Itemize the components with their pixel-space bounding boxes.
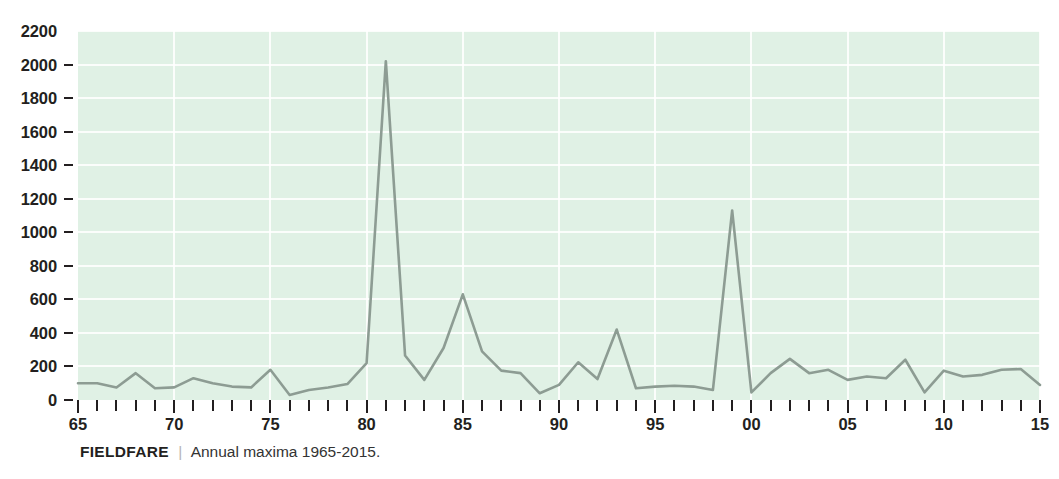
y-axis-tick-mark (64, 30, 73, 32)
x-axis-minor-tick (596, 400, 598, 411)
caption-text: Annual maxima 1965-2015. (191, 443, 381, 460)
x-axis-minor-tick (481, 400, 483, 411)
y-axis-tick-mark (64, 164, 73, 166)
x-axis-minor-tick (1020, 400, 1022, 411)
y-axis-tick-mark (64, 332, 73, 334)
x-axis-tick-label: 65 (69, 415, 87, 434)
y-axis-tick-label: 2200 (21, 22, 57, 40)
data-series-line (78, 61, 1040, 395)
x-axis-minor-tick (289, 400, 291, 411)
y-axis-tick: 0 (48, 391, 78, 409)
x-axis-minor-tick (712, 400, 714, 411)
y-axis-tick-label: 1200 (21, 190, 57, 208)
x-axis-minor-tick (231, 400, 233, 411)
caption: FIELDFARE | Annual maxima 1965-2015. (80, 443, 380, 461)
x-axis-minor-tick (500, 400, 502, 411)
x-axis-minor-tick (885, 400, 887, 411)
x-axis-tick-label: 85 (454, 415, 472, 434)
y-axis-tick-label: 0 (48, 391, 57, 409)
y-axis-tick-mark (64, 131, 73, 133)
caption-separator: | (173, 443, 187, 460)
x-axis-minor-tick (539, 400, 541, 411)
y-axis-tick-label: 1600 (21, 123, 57, 141)
x-axis-tick-label: 70 (165, 415, 183, 434)
x-axis-minor-tick (808, 400, 810, 411)
y-axis-tick-mark (64, 365, 73, 367)
x-axis-tick-label: 10 (935, 415, 953, 434)
x-axis-minor-tick (904, 400, 906, 411)
y-axis-tick-label: 400 (30, 324, 57, 342)
x-axis-tick-label: 05 (838, 415, 856, 434)
y-axis-tick-mark (64, 198, 73, 200)
y-axis-tick: 1000 (21, 223, 78, 241)
x-axis-major-tick (750, 400, 752, 413)
x-axis-major-tick (269, 400, 271, 413)
x-axis-tick-label: 75 (261, 415, 279, 434)
x-axis-minor-tick (346, 400, 348, 411)
x-axis-minor-tick (866, 400, 868, 411)
x-axis-minor-tick (981, 400, 983, 411)
y-axis-tick-mark (64, 64, 73, 66)
x-axis-major-tick (1039, 400, 1041, 413)
y-axis-tick-label: 600 (30, 290, 57, 308)
y-axis-tick-label: 1400 (21, 156, 57, 174)
caption-species: FIELDFARE (80, 443, 169, 460)
x-axis-minor-tick (212, 400, 214, 411)
x-axis-minor-tick (789, 400, 791, 411)
x-axis-minor-tick (115, 400, 117, 411)
x-axis-major-tick (654, 400, 656, 413)
y-axis-tick-label: 800 (30, 257, 57, 275)
y-axis: 0200400600800100012001400160018002000220… (0, 0, 78, 479)
x-axis-major-tick (558, 400, 560, 413)
x-axis-tick-label: 00 (742, 415, 760, 434)
x-axis-minor-tick (616, 400, 618, 411)
x-axis-minor-tick (924, 400, 926, 411)
x-axis-minor-tick (731, 400, 733, 411)
x-axis-minor-tick (770, 400, 772, 411)
y-axis-tick: 1800 (21, 89, 78, 107)
y-axis-tick-mark (64, 231, 73, 233)
y-axis-tick-label: 200 (30, 357, 57, 375)
y-axis-tick: 400 (30, 324, 78, 342)
x-axis: 6570758085909500051015 (78, 400, 1040, 440)
x-axis-major-tick (943, 400, 945, 413)
x-axis-minor-tick (423, 400, 425, 411)
x-axis-minor-tick (520, 400, 522, 411)
x-axis-major-tick (173, 400, 175, 413)
y-axis-tick: 1200 (21, 190, 78, 208)
x-axis-major-tick (462, 400, 464, 413)
chart-figure: 0200400600800100012001400160018002000220… (0, 0, 1059, 479)
x-axis-minor-tick (308, 400, 310, 411)
y-axis-tick: 1600 (21, 123, 78, 141)
x-axis-minor-tick (443, 400, 445, 411)
x-axis-minor-tick (96, 400, 98, 411)
y-axis-tick: 2000 (21, 56, 78, 74)
x-axis-tick-label: 90 (550, 415, 568, 434)
y-axis-tick-label: 1000 (21, 223, 57, 241)
y-axis-tick: 200 (30, 357, 78, 375)
y-axis-tick-mark (64, 97, 73, 99)
x-axis-minor-tick (1001, 400, 1003, 411)
x-axis-minor-tick (327, 400, 329, 411)
x-axis-tick-label: 95 (646, 415, 664, 434)
x-axis-minor-tick (404, 400, 406, 411)
y-axis-tick-label: 2000 (21, 56, 57, 74)
x-axis-minor-tick (827, 400, 829, 411)
x-axis-minor-tick (135, 400, 137, 411)
data-line-svg (78, 31, 1040, 400)
x-axis-minor-tick (673, 400, 675, 411)
y-axis-tick: 800 (30, 257, 78, 275)
y-axis-tick-mark (64, 298, 73, 300)
y-axis-tick-label: 1800 (21, 89, 57, 107)
x-axis-major-tick (847, 400, 849, 413)
y-axis-tick: 1400 (21, 156, 78, 174)
x-axis-minor-tick (385, 400, 387, 411)
x-axis-minor-tick (250, 400, 252, 411)
x-axis-minor-tick (154, 400, 156, 411)
x-axis-minor-tick (577, 400, 579, 411)
x-axis-minor-tick (192, 400, 194, 411)
y-axis-tick: 2200 (21, 22, 78, 40)
y-axis-tick: 600 (30, 290, 78, 308)
x-axis-minor-tick (962, 400, 964, 411)
x-axis-major-tick (77, 400, 79, 413)
